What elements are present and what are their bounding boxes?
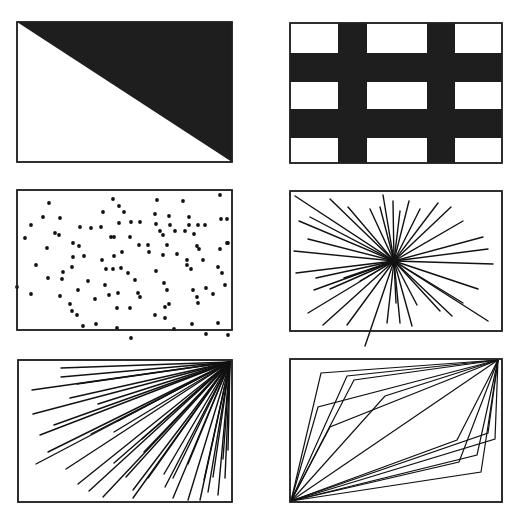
panel-grid-bars bbox=[290, 23, 502, 163]
cropped-caption-fragment bbox=[0, 0, 516, 2]
panel-graphic bbox=[290, 191, 502, 331]
panel-graphic bbox=[290, 23, 502, 163]
panel-diagonal-split bbox=[17, 22, 232, 162]
panel-graphic bbox=[290, 359, 502, 502]
panel-random-dots bbox=[17, 190, 232, 330]
panel-graphic bbox=[18, 360, 232, 502]
panel-graphic bbox=[17, 22, 232, 162]
panel-radial-burst bbox=[290, 191, 502, 331]
panel-corner-fan bbox=[18, 360, 232, 502]
panel-graphic bbox=[17, 190, 232, 330]
panel-parallelogram-fan bbox=[290, 359, 502, 502]
